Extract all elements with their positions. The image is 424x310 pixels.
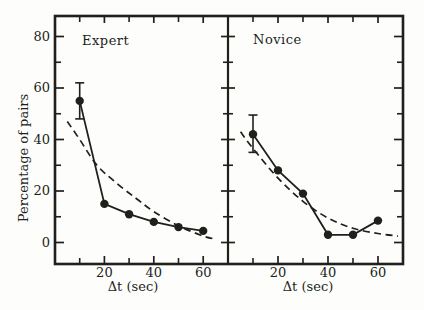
data-point-marker <box>274 166 282 174</box>
data-point-marker <box>174 223 182 231</box>
plot-canvas <box>0 0 424 310</box>
data-point-marker <box>374 216 382 224</box>
x-tick-label: 60 <box>187 266 219 280</box>
y-tick-label: 0 <box>4 235 50 251</box>
data-point-marker <box>349 231 357 239</box>
data-point-marker <box>76 97 84 105</box>
panel-title-novice: Novice <box>253 32 302 47</box>
y-tick-label: 20 <box>4 183 50 199</box>
two-panel-line-chart: Percentage of pairs Expert Novice Δt (se… <box>0 0 424 310</box>
data-point-marker <box>150 218 158 226</box>
data-point-marker <box>324 231 332 239</box>
x-tick-label: 60 <box>362 266 394 280</box>
x-axis-label-expert: Δt (sec) <box>88 279 178 294</box>
x-tick-label: 40 <box>138 266 170 280</box>
x-tick-label: 20 <box>262 266 294 280</box>
data-point-marker <box>299 189 307 197</box>
y-tick-label: 40 <box>4 132 50 148</box>
x-axis-label-novice: Δt (sec) <box>263 279 353 294</box>
data-point-marker <box>125 210 133 218</box>
data-point-marker <box>199 227 207 235</box>
x-tick-label: 20 <box>88 266 120 280</box>
y-axis-label: Percentage of pairs <box>16 73 32 243</box>
x-tick-label: 40 <box>312 266 344 280</box>
y-tick-label: 60 <box>4 80 50 96</box>
data-point-marker <box>249 130 257 138</box>
data-point-marker <box>100 200 108 208</box>
series-observed-novice <box>253 134 378 235</box>
y-tick-label: 80 <box>4 29 50 45</box>
panel-title-expert: Expert <box>82 33 129 48</box>
series-observed-expert <box>80 101 204 231</box>
